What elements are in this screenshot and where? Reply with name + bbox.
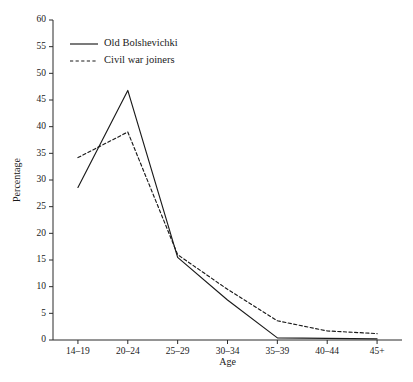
y-tick-label: 10	[37, 281, 47, 291]
x-tick-label: 35–39	[265, 346, 289, 356]
series-line-1	[78, 90, 377, 339]
y-tick-label: 45	[37, 94, 47, 104]
chart-container: 05101520253035404550556014–1920–2425–293…	[0, 0, 413, 382]
y-tick-label: 60	[37, 14, 47, 24]
y-tick-label: 55	[37, 41, 47, 51]
x-tick-label: 25–29	[166, 346, 190, 356]
y-tick-label: 40	[37, 121, 47, 131]
y-tick-label: 15	[37, 254, 47, 264]
y-tick-label: 5	[41, 308, 46, 318]
x-tick-label: 40–44	[315, 346, 339, 356]
x-axis-title: Age	[219, 356, 236, 367]
legend-label-1: Old Bolshevichki	[104, 37, 178, 48]
x-tick-label: 14–19	[66, 346, 90, 356]
x-tick-label: 20–24	[116, 346, 140, 356]
y-tick-label: 25	[37, 201, 47, 211]
y-tick-label: 50	[37, 68, 47, 78]
line-chart: 05101520253035404550556014–1920–2425–293…	[0, 0, 413, 382]
series-line-2	[78, 132, 377, 334]
y-tick-label: 0	[41, 334, 46, 344]
y-tick-label: 20	[37, 228, 47, 238]
y-axis-title: Percentage	[11, 158, 22, 202]
x-tick-label: 45+	[370, 346, 385, 356]
y-tick-label: 30	[37, 174, 47, 184]
legend-label-2: Civil war joiners	[104, 54, 175, 65]
x-tick-label: 30–34	[216, 346, 240, 356]
y-tick-label: 35	[37, 148, 47, 158]
